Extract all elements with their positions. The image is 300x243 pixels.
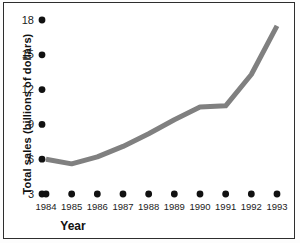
- y-tick-dot: [39, 121, 46, 128]
- x-tick-dot: [197, 191, 204, 198]
- y-tick-dot: [39, 17, 46, 24]
- x-tick-dot: [222, 191, 229, 198]
- x-tick-dot: [145, 191, 152, 198]
- x-tick-dot: [274, 191, 281, 198]
- x-tick-dot: [120, 191, 127, 198]
- y-tick-dot: [39, 156, 46, 163]
- y-tick-dot: [39, 86, 46, 93]
- x-tick-dot: [248, 191, 255, 198]
- x-tick-dot: [171, 191, 178, 198]
- x-axis-title: Year: [38, 219, 108, 233]
- y-axis-tick-markers: [39, 17, 46, 198]
- x-tick-label: 1993: [262, 202, 292, 212]
- chart-page: 369121518 198419851986198719881989199019…: [0, 0, 300, 243]
- x-tick-dot: [94, 191, 101, 198]
- y-tick-dot: [39, 51, 46, 58]
- y-tick-label: 18: [12, 15, 34, 26]
- x-tick-dot: [43, 191, 50, 198]
- y-axis-title: Total sales (billions of dollars): [21, 29, 33, 199]
- x-tick-dot: [68, 191, 75, 198]
- x-axis-tick-markers: [43, 191, 281, 198]
- sales-trend-line: [46, 26, 277, 164]
